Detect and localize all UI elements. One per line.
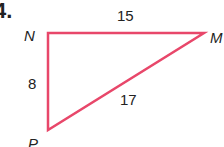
- vertex-label-n: N: [24, 28, 35, 43]
- vertex-label-m: M: [210, 30, 223, 45]
- triangle-nmp: [48, 33, 204, 130]
- triangle-diagram: [0, 0, 224, 147]
- side-label-np: 8: [28, 76, 36, 91]
- side-label-pm: 17: [120, 92, 137, 107]
- vertex-label-p: P: [28, 136, 38, 147]
- side-label-nm: 15: [117, 8, 134, 23]
